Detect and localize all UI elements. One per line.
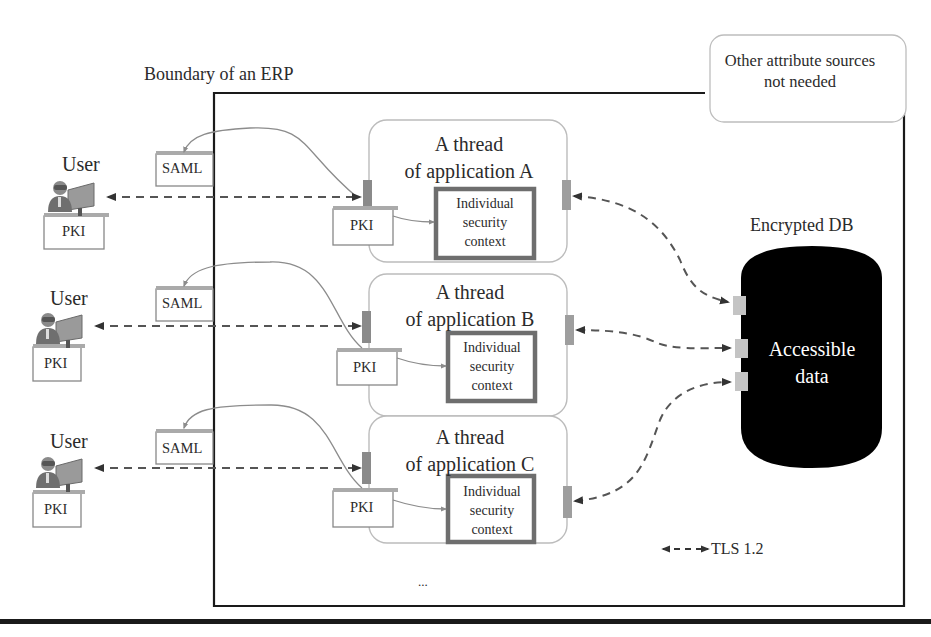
thread-b-line2: of application B xyxy=(380,306,560,333)
thread-b-right-port xyxy=(565,315,574,345)
other-sources-line1: Other attribute sources xyxy=(700,50,900,71)
saml-c-doc: SAML xyxy=(162,440,202,457)
saml-b-doc: SAML xyxy=(162,295,202,312)
thread-c-line2: of application C xyxy=(380,451,560,478)
thread-b-line1: A thread xyxy=(380,279,560,306)
thread-c-title: A thread of application C xyxy=(380,424,560,478)
user-b-pki-doc: PKI xyxy=(44,355,67,372)
db-line2: data xyxy=(747,363,877,390)
context-b-line1: Individual xyxy=(447,338,537,357)
db-title: Encrypted DB xyxy=(750,215,853,236)
context-c-line3: context xyxy=(447,520,537,539)
context-c-label: Individual security context xyxy=(447,482,537,539)
user-c-icon xyxy=(36,457,82,492)
thread-b-left-port xyxy=(362,311,371,343)
user-a-label: User xyxy=(62,153,100,176)
thread-a-title: A thread of application A xyxy=(379,131,559,185)
thread-a-line2: of application A xyxy=(379,158,559,185)
thread-b-title: A thread of application B xyxy=(380,279,560,333)
db-content-label: Accessible data xyxy=(747,336,877,390)
user-b-icon xyxy=(36,313,82,348)
user-c-pki-doc: PKI xyxy=(44,501,67,518)
context-b-label: Individual security context xyxy=(447,338,537,395)
context-b-line2: security xyxy=(447,357,537,376)
other-sources-line2: not needed xyxy=(700,71,900,92)
more-threads-ellipsis: ... xyxy=(418,574,428,590)
thread-c-line1: A thread xyxy=(380,424,560,451)
context-a-line1: Individual xyxy=(440,194,530,213)
user-c-label: User xyxy=(50,430,88,453)
user-a-icon xyxy=(48,181,94,216)
user-b-label: User xyxy=(50,287,88,310)
thread-a-line1: A thread xyxy=(379,131,559,158)
thread-a-right-port xyxy=(562,180,571,210)
db-line1: Accessible xyxy=(747,336,877,363)
context-c-line2: security xyxy=(447,501,537,520)
boundary-label: Boundary of an ERP xyxy=(144,64,293,85)
legend-label: TLS 1.2 xyxy=(711,540,763,558)
context-a-line2: security xyxy=(440,213,530,232)
user-a-pki-doc: PKI xyxy=(62,223,85,240)
saml-a-doc: SAML xyxy=(162,160,202,177)
app-b-pki-doc: PKI xyxy=(353,359,376,376)
bottom-rule xyxy=(0,619,931,624)
thread-a-left-port xyxy=(363,180,372,210)
app-a-pki-doc: PKI xyxy=(350,217,373,234)
context-a-label: Individual security context xyxy=(440,194,530,251)
thread-c-right-port xyxy=(563,486,572,518)
context-a-line3: context xyxy=(440,232,530,251)
db-port-a xyxy=(733,296,746,315)
context-c-line1: Individual xyxy=(447,482,537,501)
context-b-line3: context xyxy=(447,376,537,395)
app-c-pki-doc: PKI xyxy=(350,499,373,516)
other-sources-label: Other attribute sources not needed xyxy=(700,50,900,92)
thread-c-left-port xyxy=(362,452,371,484)
